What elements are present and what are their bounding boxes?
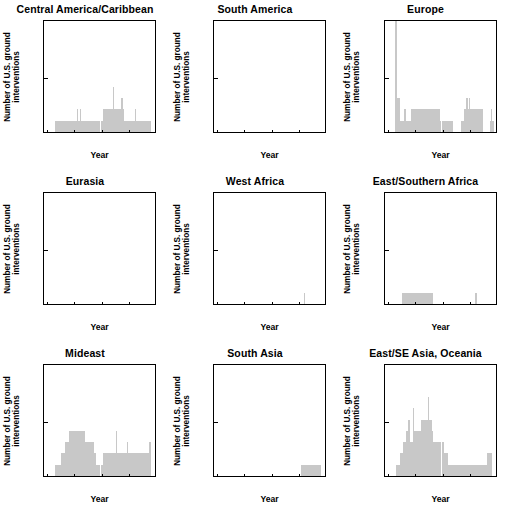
x-tick-mark xyxy=(470,474,471,477)
y-tick-label: 10 xyxy=(213,20,214,26)
x-tick-label: 1960 xyxy=(406,304,425,305)
y-tick-mark xyxy=(385,422,389,423)
y-tick-label: 10 xyxy=(213,192,214,198)
x-tick-mark xyxy=(388,474,389,477)
x-tick-mark xyxy=(217,302,218,305)
x-axis-label: Year xyxy=(43,322,156,332)
x-tick-label: 2020 xyxy=(489,476,497,477)
plot-area: 051019401960198020002020 xyxy=(213,192,326,305)
plot-area: 051019401960198020002020 xyxy=(384,192,497,305)
x-tick-label: 1960 xyxy=(65,304,84,305)
y-axis-label: Number of U.S. groundinterventions xyxy=(174,192,190,305)
plot-area: 051019401960198020002020 xyxy=(213,364,326,477)
x-tick-label: 1960 xyxy=(406,132,425,133)
x-axis-label: Year xyxy=(384,150,497,160)
y-axis-label-line2: interventions xyxy=(12,376,21,466)
y-axis-label-line2: interventions xyxy=(12,32,21,122)
x-tick-mark xyxy=(443,474,444,477)
chart-panel: Central America/CaribbeanNumber of U.S. … xyxy=(0,0,170,172)
x-tick-mark xyxy=(443,130,444,133)
y-tick-label: 10 xyxy=(43,364,44,370)
x-tick-mark xyxy=(74,130,75,133)
x-axis-label: Year xyxy=(384,494,497,504)
x-tick-label: 1980 xyxy=(92,304,111,305)
plot-area: 051019401960198020002020 xyxy=(213,20,326,133)
y-axis-label: Number of U.S. groundinterventions xyxy=(174,20,190,133)
x-tick-label: 2000 xyxy=(120,132,139,133)
x-tick-mark xyxy=(272,474,273,477)
chart-panel: MideastNumber of U.S. groundintervention… xyxy=(0,344,170,517)
x-tick-mark xyxy=(129,302,130,305)
y-axis-label: Number of U.S. groundinterventions xyxy=(4,192,20,305)
y-axis-label-line2: interventions xyxy=(182,32,191,122)
y-axis-label-line2: interventions xyxy=(182,204,191,294)
y-axis-label-line1: Number of U.S. ground xyxy=(343,204,352,294)
x-tick-mark xyxy=(272,302,273,305)
y-axis-label: Number of U.S. groundinterventions xyxy=(174,364,190,477)
chart-panel: EurasiaNumber of U.S. groundintervention… xyxy=(0,172,170,344)
bar xyxy=(150,121,151,132)
x-tick-mark xyxy=(217,474,218,477)
y-axis-label-line1: Number of U.S. ground xyxy=(3,376,12,466)
x-tick-mark xyxy=(470,302,471,305)
x-tick-label: 1940 xyxy=(213,304,226,305)
x-tick-label: 1980 xyxy=(262,132,281,133)
x-tick-mark xyxy=(415,130,416,133)
panel-title: East/Southern Africa xyxy=(340,175,511,187)
x-tick-label: 2020 xyxy=(489,304,497,305)
y-tick-label: 0 xyxy=(43,129,44,133)
panel-title: East/SE Asia, Oceania xyxy=(340,347,511,359)
bar xyxy=(476,293,477,304)
x-tick-mark xyxy=(74,302,75,305)
x-tick-label: 2000 xyxy=(461,132,480,133)
y-tick-label: 10 xyxy=(384,364,385,370)
y-axis-label: Number of U.S. groundinterventions xyxy=(4,364,20,477)
x-tick-label: 2020 xyxy=(148,476,156,477)
bar xyxy=(491,453,492,476)
x-tick-mark xyxy=(299,474,300,477)
bar xyxy=(481,109,482,132)
y-axis-label-line1: Number of U.S. ground xyxy=(3,204,12,294)
x-tick-label: 1940 xyxy=(384,132,397,133)
panel-grid: Central America/CaribbeanNumber of U.S. … xyxy=(0,0,511,517)
x-axis-label: Year xyxy=(213,150,326,160)
bar xyxy=(492,121,493,132)
x-tick-label: 2020 xyxy=(318,304,326,305)
x-tick-label: 1980 xyxy=(433,304,452,305)
x-tick-label: 1940 xyxy=(213,132,226,133)
y-axis-label: Number of U.S. groundinterventions xyxy=(344,192,360,305)
plot-area: 051019401960198020002020 xyxy=(43,364,156,477)
x-tick-label: 1960 xyxy=(235,304,254,305)
x-tick-mark xyxy=(129,130,130,133)
bar-series xyxy=(385,365,496,476)
x-tick-mark xyxy=(244,302,245,305)
y-tick-label: 10 xyxy=(213,364,214,370)
y-axis-label-line2: interventions xyxy=(352,204,361,294)
x-tick-mark xyxy=(217,130,218,133)
y-axis-label-line1: Number of U.S. ground xyxy=(3,32,12,122)
chart-panel: East/Southern AfricaNumber of U.S. groun… xyxy=(340,172,511,344)
x-tick-mark xyxy=(443,302,444,305)
x-tick-label: 1960 xyxy=(406,476,425,477)
y-tick-label: 0 xyxy=(384,473,385,477)
x-tick-mark xyxy=(299,130,300,133)
y-axis-label: Number of U.S. groundinterventions xyxy=(344,364,360,477)
x-tick-mark xyxy=(244,130,245,133)
plot-area: 051019401960198020002020 xyxy=(384,20,497,133)
panel-title: Eurasia xyxy=(0,175,170,187)
y-tick-mark xyxy=(44,250,48,251)
x-axis-label: Year xyxy=(43,494,156,504)
plot-area: 051019401960198020002020 xyxy=(43,192,156,305)
panel-title: West Africa xyxy=(170,175,340,187)
y-tick-label: 0 xyxy=(43,301,44,305)
bar xyxy=(150,442,151,476)
y-tick-mark xyxy=(385,78,389,79)
x-tick-label: 2000 xyxy=(461,476,480,477)
chart-panel: EuropeNumber of U.S. groundinterventions… xyxy=(340,0,511,172)
x-tick-mark xyxy=(47,130,48,133)
x-tick-label: 1940 xyxy=(213,476,226,477)
x-axis-label: Year xyxy=(43,150,156,160)
y-tick-mark xyxy=(214,78,218,79)
bar xyxy=(320,465,321,476)
panel-title: Mideast xyxy=(0,347,170,359)
